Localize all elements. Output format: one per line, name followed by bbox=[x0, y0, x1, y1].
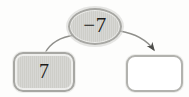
input-value-label: 7 bbox=[39, 60, 49, 83]
operation-label: −7 bbox=[83, 13, 106, 38]
number-machine-diagram: −7 7 bbox=[0, 0, 189, 97]
operation-ellipse: −7 bbox=[68, 8, 122, 45]
right-arrow-icon bbox=[120, 31, 154, 50]
answer-box bbox=[126, 55, 183, 92]
left-connector-line bbox=[45, 35, 75, 53]
input-value-box: 7 bbox=[13, 52, 75, 92]
